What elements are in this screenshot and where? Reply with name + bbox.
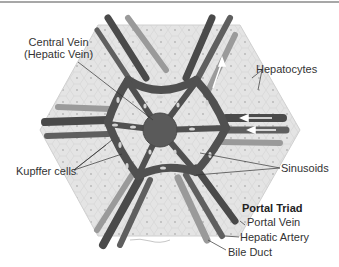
label-hepatic-artery: Hepatic Artery — [240, 231, 309, 243]
bile-duct-vessel — [58, 107, 110, 109]
label-sinusoids: Sinusoids — [281, 162, 329, 174]
central-vein-line1: Central Vein — [24, 36, 93, 48]
label-bile-duct: Bile Duct — [228, 246, 272, 258]
label-hepatocytes: Hepatocytes — [256, 63, 317, 75]
label-portal-vein: Portal Vein — [247, 216, 300, 228]
label-portal-triad: Portal Triad — [242, 202, 303, 214]
central-vein-line2: (Hepatic Vein) — [24, 48, 93, 60]
label-central-vein: Central Vein (Hepatic Vein) — [24, 36, 93, 60]
portal-vein-vessel — [45, 120, 108, 122]
bile-duct-vessel — [222, 142, 280, 143]
artist-signature — [130, 239, 170, 242]
label-kupffer-cells: Kupffer cells — [16, 165, 76, 177]
hepatic-artery-vessel — [47, 134, 108, 136]
central-vein — [143, 113, 177, 147]
